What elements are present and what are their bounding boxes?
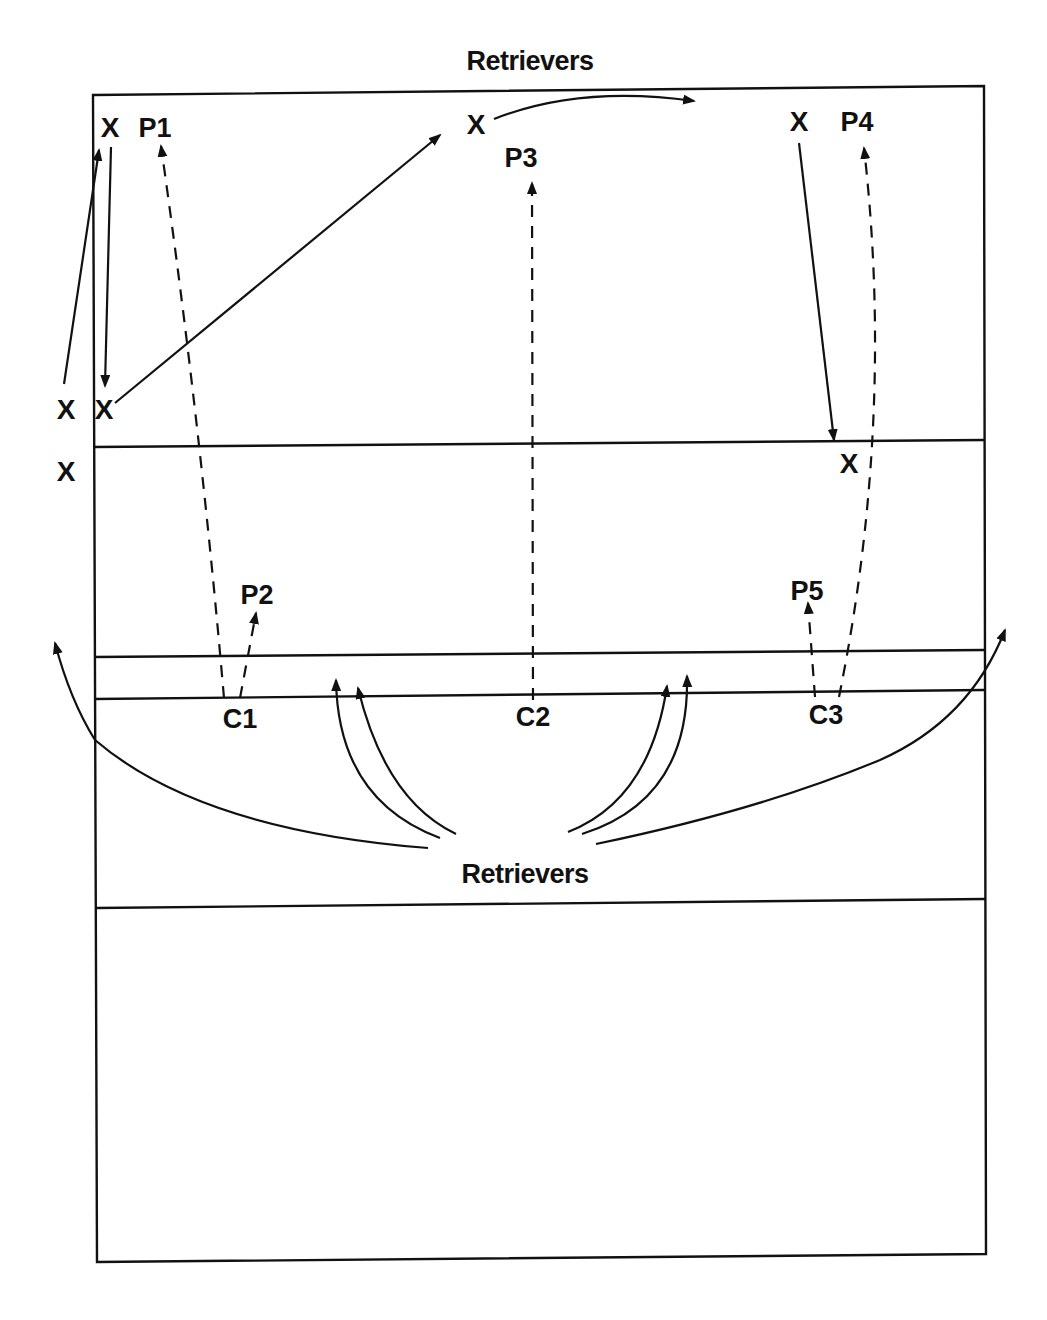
position-label-p2: P2 [240,580,273,610]
position-label-p5: P5 [790,576,823,606]
path-arrow [494,96,694,119]
retriever-path-right-outer [596,630,1005,844]
position-label-p3: P3 [504,143,537,173]
path-arrow [115,135,440,403]
retriever-path-left-inner [358,688,456,834]
solid-paths [55,96,1005,848]
coverage-path-c1-p1 [161,146,224,698]
coverage-path-c3-p4 [839,148,875,697]
coverage-label-c1: C1 [223,704,258,734]
court [93,86,986,1262]
player-x-marker: X [790,106,809,137]
attack-line-top [93,440,984,447]
coverage-path-c2-p3 [532,183,533,700]
retriever-path-right-inner [568,686,667,832]
dashed-paths [161,146,875,700]
attack-line-bottom [96,899,985,908]
net-line-lower [94,690,984,699]
player-x-marker: X [95,394,114,425]
player-x-marker: X [840,448,859,479]
player-x-marker: X [57,456,76,487]
path-arrow [799,143,834,440]
top-retrievers-label: Retrievers [466,46,593,76]
position-label-p4: P4 [840,107,873,137]
court-outline [93,86,986,1262]
coverage-path-c3-p5 [808,603,815,697]
coverage-label-c3: C3 [809,700,844,730]
position-label-p1: P1 [138,113,171,143]
bottom-retrievers-label: Retrievers [461,859,588,889]
retriever-path-left-outer [55,643,428,848]
player-x-marker: X [57,394,76,425]
player-x-marker: X [467,109,486,140]
path-arrow [105,147,111,386]
play-diagram: Retrievers Retrievers X X X X X X X P1 P… [0,0,1047,1320]
player-x-marker: X [101,112,120,143]
coverage-label-c2: C2 [516,702,551,732]
retriever-path-right-mid [582,676,687,834]
net-line-upper [94,650,984,657]
labels: Retrievers Retrievers X X X X X X X P1 P… [57,46,874,889]
